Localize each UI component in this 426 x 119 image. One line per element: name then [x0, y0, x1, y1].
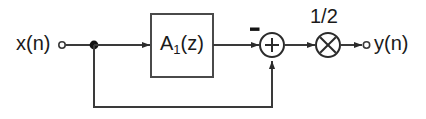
- input-terminal-icon: [59, 42, 65, 48]
- output-signal-label: y(n): [374, 33, 408, 53]
- filter-block-label-tail: (z): [181, 32, 204, 54]
- block-diagram: x(n) y(n) 1/2 A1(z): [0, 0, 426, 119]
- diagram-canvas: [0, 0, 426, 119]
- filter-block-label: A1(z): [160, 33, 204, 56]
- gain-coefficient-label: 1/2: [310, 6, 338, 26]
- output-terminal-icon: [363, 42, 369, 48]
- filter-block-label-subscript: 1: [173, 42, 180, 57]
- input-signal-label: x(n): [16, 33, 50, 53]
- filter-block-label-main: A: [160, 32, 173, 54]
- minus-sign-icon: [250, 28, 260, 31]
